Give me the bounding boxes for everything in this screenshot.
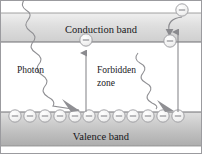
photon-label: Photon	[17, 65, 44, 75]
band-diagram-canvas: Conduction band Valence band	[0, 0, 202, 154]
valence-band-label: Valence band	[73, 131, 130, 142]
forbidden-zone-label-line2: zone	[97, 78, 115, 88]
band-diagram-figure: Conduction band Valence band	[0, 0, 202, 154]
conduction-band-label: Conduction band	[65, 24, 138, 35]
forbidden-zone-label-line1: Forbidden	[97, 65, 136, 75]
